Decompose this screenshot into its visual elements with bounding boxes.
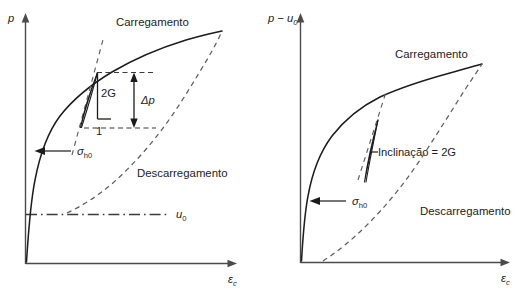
y-axis-label: p xyxy=(7,12,14,24)
unloading-curve xyxy=(323,64,482,261)
x-axis-arrowhead xyxy=(501,259,511,266)
y-axis-right xyxy=(297,13,305,263)
y-axis-label: p − u0 xyxy=(267,12,298,27)
loading-curve xyxy=(27,31,223,262)
sigma-h0-label: σh0 xyxy=(77,145,92,160)
loading-curve-label: Carregamento xyxy=(395,48,468,60)
delta-p-label: Δp xyxy=(140,94,155,106)
x-axis-right xyxy=(301,259,511,266)
sigma-h0-leader xyxy=(310,197,347,205)
unloading-curve-label: Descarregamento xyxy=(137,167,228,179)
pressuremeter-curves-figure: p εc u0 2G 1 Δp xyxy=(0,0,523,298)
shear-modulus-label: 2G xyxy=(101,87,116,99)
loading-curve-label: Carregamento xyxy=(116,16,189,28)
sigma-h0-leader xyxy=(35,147,72,155)
loop-tangent-dashed xyxy=(72,36,104,155)
delta-p-dimension xyxy=(130,73,137,129)
x-axis-label: εc xyxy=(501,272,510,287)
unit-slope-label: 1 xyxy=(96,125,102,137)
y-axis-left xyxy=(22,13,30,264)
loading-curve xyxy=(302,64,483,261)
x-axis-arrowhead xyxy=(228,260,238,267)
slope-annotation-label: Inclinação = 2G xyxy=(378,146,456,158)
loop-tangent-dashed xyxy=(358,92,386,180)
unload-reload-loop-inner xyxy=(82,73,98,128)
unloading-curve-label: Descarregamento xyxy=(420,205,511,217)
y-axis-arrowhead xyxy=(22,13,30,23)
y-axis-arrowhead xyxy=(297,13,305,23)
x-axis-left xyxy=(26,260,238,267)
sigma-h0-label: σh0 xyxy=(352,195,367,210)
chart-panel-total-pressure: p εc u0 2G 1 Δp xyxy=(0,0,262,298)
x-axis-label: εc xyxy=(228,273,237,288)
unloading-curve xyxy=(67,31,222,213)
chart-panel-effective-pressure: p − u0 εc Inclinação = 2G σh0 Carregamen… xyxy=(262,0,523,298)
u0-label: u0 xyxy=(176,208,186,223)
